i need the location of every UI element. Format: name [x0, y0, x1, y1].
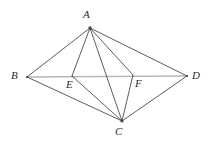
vertex-dot-A [88, 26, 91, 29]
geometry-figure: A B C D E F [0, 0, 215, 146]
segment-CD [122, 76, 187, 121]
vertex-label-F: F [135, 78, 142, 89]
figure-canvas [0, 0, 215, 146]
vertex-label-E: E [66, 79, 73, 90]
vertex-label-C: C [115, 126, 122, 137]
segment-AF [90, 28, 133, 75]
vertex-label-B: B [11, 70, 18, 81]
segment-AD [90, 28, 187, 76]
vertex-label-A: A [83, 9, 90, 20]
segment-CB [27, 77, 122, 121]
vertex-dot-layer [26, 26, 188, 122]
segment-layer [27, 28, 187, 121]
vertex-dot-C [120, 119, 123, 122]
vertex-label-D: D [192, 70, 200, 81]
vertex-dot-D [186, 75, 188, 77]
vertex-dot-B [26, 76, 28, 78]
